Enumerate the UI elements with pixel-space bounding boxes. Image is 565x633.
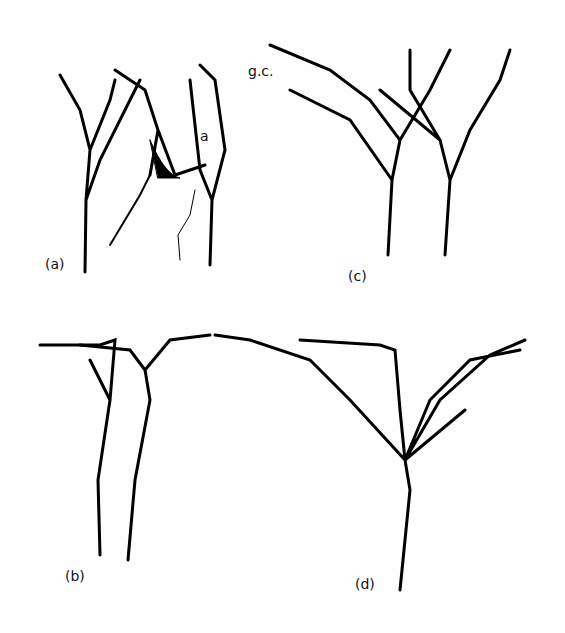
granule-cell-label: g.c. xyxy=(248,63,273,79)
soma-label: a xyxy=(200,128,209,144)
panel-b-label: (b) xyxy=(65,568,85,584)
panel-c-drawing xyxy=(270,45,510,255)
panel-d-drawing xyxy=(215,335,525,590)
neuron-figure: a g.c. (a) (c) (b) (d) xyxy=(0,0,565,633)
panel-b-drawing xyxy=(40,335,210,560)
panel-a-drawing xyxy=(60,65,225,272)
neuron-drawings xyxy=(0,0,565,633)
panel-a-label: (a) xyxy=(45,256,65,272)
panel-d-label: (d) xyxy=(355,576,375,592)
panel-c-label: (c) xyxy=(348,268,367,284)
